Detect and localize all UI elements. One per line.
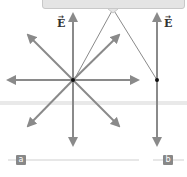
vector-arrow-icon: → [58,13,64,21]
charge-dot-a [71,78,75,82]
callout-pointer-lines [74,9,157,80]
field-label-e-b: → E [164,17,172,30]
field-diagram [0,0,187,177]
point-dot-b [155,78,159,82]
field-label-e-a: → E [57,17,65,30]
panel-label-b: b [163,155,173,165]
panel-label-a: a [16,155,26,165]
vector-arrow-icon: → [165,13,171,21]
